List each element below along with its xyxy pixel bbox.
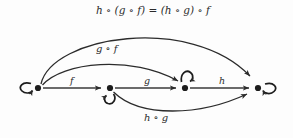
label-h-after-g: h ∘ g — [144, 113, 168, 123]
identity-loop-d — [263, 83, 276, 93]
arc-g-after-f — [43, 64, 179, 85]
label-g-after-f: g ∘ f — [96, 44, 117, 54]
node-c-dot — [182, 85, 188, 91]
node-a-dot — [35, 85, 41, 91]
arc-h-after-g — [114, 92, 248, 111]
diagram-canvas: f g h g ∘ f h ∘ g h ∘ (g ∘ f) = (h ∘ g) … — [0, 0, 293, 138]
identity-loop-b — [105, 94, 115, 104]
label-h: h — [219, 76, 225, 86]
node-d-dot — [255, 85, 261, 91]
label-associativity: h ∘ (g ∘ f) = (h ∘ g) ∘ f — [96, 5, 210, 16]
node-b-dot — [107, 85, 113, 91]
identity-loop-a — [20, 83, 32, 93]
identity-loop-c — [181, 71, 192, 82]
label-g: g — [144, 76, 150, 86]
label-f: f — [70, 76, 74, 86]
